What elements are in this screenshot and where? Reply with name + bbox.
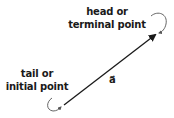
head-label-line1: head or [62,5,152,18]
head-label-line2: terminal point [62,18,152,31]
vector-symbol: a [109,74,116,85]
tail-pointer-curve-icon [48,98,61,111]
head-label: head or terminal point [62,5,152,31]
tail-label: tail or initial point [2,67,72,93]
tail-label-line1: tail or [2,67,72,80]
tail-label-line2: initial point [2,80,72,93]
head-pointer-curve-icon [151,13,166,33]
vector-diagram: head or terminal point tail or initial p… [0,0,174,118]
vector-arrow [64,35,155,105]
vector-label: a⃗ [109,74,116,85]
